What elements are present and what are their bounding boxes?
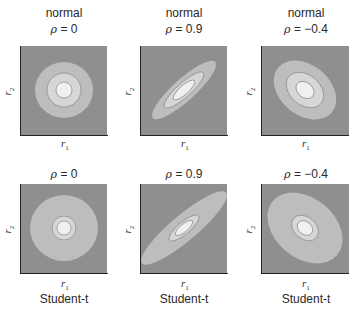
panel-title-normal-rho09: normal (124, 6, 244, 20)
panel-title-student-rho0: Student-t (4, 292, 124, 306)
y-axis-label: r2 (242, 88, 257, 96)
rho-label: ρ = 0 (4, 167, 124, 182)
contour-plot-normal-rho09 (140, 46, 228, 136)
panel-title-normal-rho0: normal (4, 6, 124, 20)
x-axis-label: r1 (181, 137, 189, 152)
x-axis-label: r1 (181, 277, 189, 292)
y-axis-label: r2 (121, 88, 136, 96)
panel-title-normal-rhom04: normal (246, 6, 363, 20)
y-axis-label: r2 (1, 88, 16, 96)
rho-label: ρ = 0.9 (124, 22, 244, 37)
contour-plot-student-rhom04 (261, 184, 349, 274)
x-axis-label: r1 (302, 277, 310, 292)
y-axis-label: r2 (242, 226, 257, 234)
contour-plot-normal-rhom04 (261, 46, 349, 136)
contour-plot-student-rho0 (20, 184, 108, 274)
rho-label: ρ = 0 (4, 22, 124, 37)
panel-title-student-rho09: Student-t (124, 292, 244, 306)
y-axis-label: r2 (121, 226, 136, 234)
rho-label: ρ = −0.4 (246, 22, 363, 37)
panel-title-student-rhom04: Student-t (246, 292, 363, 306)
x-axis-label: r1 (61, 277, 69, 292)
contour-plot-normal-rho0 (20, 46, 108, 136)
x-axis-label: r1 (61, 137, 69, 152)
y-axis-label: r2 (1, 226, 16, 234)
rho-label: ρ = −0.4 (246, 167, 363, 182)
contour-plot-student-rho09 (140, 184, 228, 274)
x-axis-label: r1 (302, 137, 310, 152)
rho-label: ρ = 0.9 (124, 167, 244, 182)
